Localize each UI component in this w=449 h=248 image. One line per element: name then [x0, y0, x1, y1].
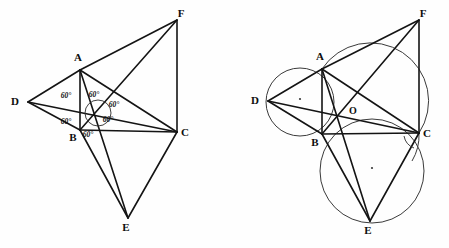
- left-segment-BC: [80, 130, 177, 132]
- right-cevians: [268, 20, 419, 221]
- angle-label-3: 60°: [109, 100, 120, 109]
- left-segment-FA: [80, 20, 177, 70]
- left-equilateral-abd: [28, 70, 80, 130]
- diagram-canvas: A B C D E F 60° 60° 60° 60° 60° 60°: [0, 0, 449, 248]
- right-cevian-BF: [322, 20, 419, 134]
- angle-label-2: 60°: [89, 90, 100, 99]
- geometry-figure: A B C D E F 60° 60° 60° 60° 60° 60°: [0, 0, 449, 248]
- left-diagram: A B C D E F 60° 60° 60° 60° 60° 60°: [11, 7, 189, 233]
- right-vertex-labels: A B C D E F O: [251, 7, 431, 236]
- right-vertex-label-E: E: [364, 224, 371, 236]
- left-vertex-label-D: D: [11, 95, 19, 107]
- left-vertex-label-B: B: [69, 131, 77, 143]
- circumcircle-AFC-lower-arc: [412, 133, 419, 161]
- left-segment-EC: [128, 132, 177, 218]
- circle-center-dot-ADB: [299, 98, 301, 100]
- right-segment-BC: [322, 133, 419, 134]
- right-segment-AD: [268, 69, 322, 101]
- right-equilateral-abd: [268, 69, 322, 134]
- right-segment-EC: [370, 133, 419, 221]
- right-cevian-AE: [322, 69, 370, 221]
- right-vertex-label-C: C: [423, 127, 431, 139]
- right-triangle-abc: [322, 69, 419, 134]
- right-diagram: A B C D E F O: [251, 7, 431, 236]
- left-cevian-BF: [80, 20, 177, 130]
- left-vertex-label-E: E: [122, 221, 129, 233]
- left-vertex-labels: A B C D E F: [11, 7, 189, 233]
- left-segment-DB: [28, 102, 80, 130]
- left-vertex-label-F: F: [178, 7, 185, 19]
- angle-label-1: 60°: [61, 91, 72, 100]
- left-equilateral-bce: [80, 130, 177, 218]
- right-vertex-label-F: F: [420, 7, 427, 19]
- right-cevian-CD: [268, 101, 419, 133]
- right-vertex-label-O: O: [349, 105, 357, 116]
- right-segment-FA: [322, 20, 419, 69]
- right-equilateral-bce: [322, 133, 419, 221]
- right-vertex-label-A: A: [316, 50, 324, 62]
- left-segment-AD: [28, 70, 80, 102]
- left-vertex-label-C: C: [181, 126, 189, 138]
- angle-label-5: 60°: [103, 115, 114, 124]
- left-vertex-label-A: A: [74, 51, 82, 63]
- angle-label-6: 60°: [83, 130, 94, 139]
- right-vertex-label-B: B: [311, 136, 319, 148]
- right-vertex-label-D: D: [251, 94, 259, 106]
- angle-label-4: 60°: [61, 117, 72, 126]
- circle-center-dot-BEC: [371, 167, 373, 169]
